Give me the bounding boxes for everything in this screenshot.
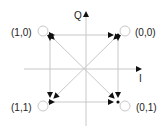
loop-icon	[120, 26, 130, 36]
state-point	[116, 100, 119, 103]
point-label-bottom-right: (0,1)	[136, 103, 157, 113]
point-label-bottom-left: (1,1)	[11, 103, 32, 113]
i-axis-label: I	[139, 74, 142, 84]
q-axis-arrow-icon	[83, 11, 89, 17]
point-label-top-right: (0,0)	[135, 28, 156, 38]
state-point	[116, 33, 119, 36]
state-point	[48, 100, 51, 103]
i-axis-arrow-icon	[136, 66, 142, 72]
q-axis-label: Q	[74, 11, 82, 21]
loop-icon	[120, 101, 130, 111]
point-label-top-left: (1,0)	[11, 28, 32, 38]
loop-icon	[38, 26, 48, 36]
state-point	[48, 33, 51, 36]
loop-icon	[38, 101, 48, 111]
